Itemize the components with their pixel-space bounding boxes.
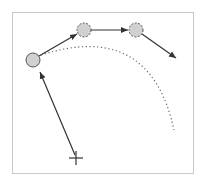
node-step-2 [129, 23, 143, 37]
diagram-frame [13, 13, 194, 174]
diagram-canvas [0, 0, 203, 184]
node-start [26, 53, 40, 67]
node-step-1 [77, 23, 91, 37]
